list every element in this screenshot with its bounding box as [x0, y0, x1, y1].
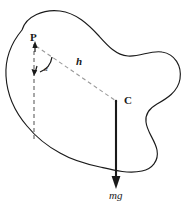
label-centre-of-mass-C: C — [124, 95, 132, 106]
label-angle: α — [44, 66, 48, 73]
diagram-canvas — [0, 0, 189, 214]
physics-diagram-figure: P C h mg α — [0, 0, 189, 214]
point-P-marker — [34, 44, 36, 46]
point-C-marker — [115, 100, 117, 102]
label-pivot-P: P — [30, 32, 37, 43]
weight-vector-arrow — [112, 101, 121, 189]
label-distance-h: h — [76, 56, 82, 67]
label-weight-mg: mg — [109, 190, 122, 201]
